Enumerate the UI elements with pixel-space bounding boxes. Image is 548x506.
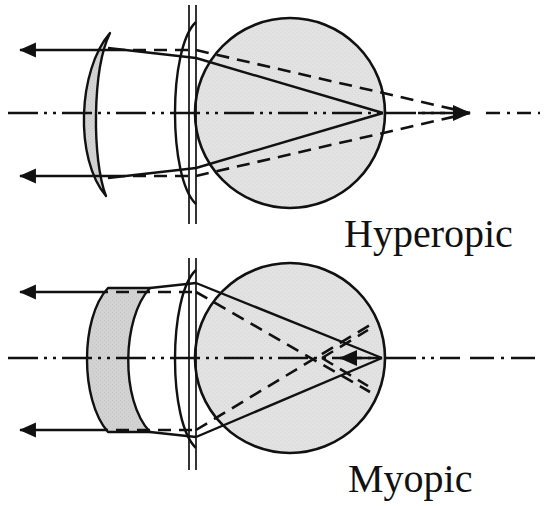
refraction-diagram: Hyperopic	[0, 0, 548, 506]
panel-label-myopic: Myopic	[348, 456, 472, 501]
figure-root: Hyperopic	[0, 0, 548, 506]
panel-label-hyperopic: Hyperopic	[344, 211, 513, 256]
